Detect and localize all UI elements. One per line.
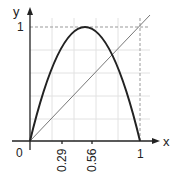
x-tick-056: 0.56 (85, 148, 99, 172)
chart: y x 0 1 1 0.29 0.56 (0, 0, 175, 178)
x-tick-029: 0.29 (55, 148, 69, 172)
y-tick-1: 1 (17, 20, 24, 34)
x-axis-arrow-icon (152, 138, 160, 144)
x-tick-1: 1 (137, 147, 144, 161)
origin-label: 0 (16, 146, 23, 160)
y-axis-label: y (13, 4, 20, 19)
y-axis-arrow-icon (27, 7, 33, 15)
x-axis-label: x (163, 134, 170, 149)
